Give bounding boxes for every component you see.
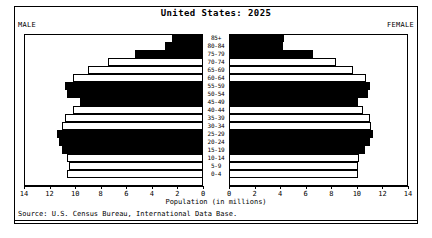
male-bar	[62, 146, 203, 154]
source-note: Source: U.S. Census Bureau, Internationa…	[18, 210, 237, 219]
source-underline	[15, 220, 417, 221]
axis-tick-label: 6	[304, 190, 308, 198]
female-bar	[229, 154, 359, 162]
female-bar	[229, 138, 370, 146]
male-bar	[73, 106, 203, 114]
female-bar	[229, 106, 363, 114]
female-bar	[229, 162, 358, 170]
axis-tick	[357, 186, 358, 189]
age-group-label: 10-14	[203, 154, 229, 162]
male-bar	[65, 114, 203, 122]
male-bar	[59, 138, 203, 146]
age-group-label: 50-54	[203, 90, 229, 98]
x-axis-title: Population (in millions)	[14, 198, 418, 207]
axis-tick	[408, 186, 409, 189]
axis-tick	[50, 186, 51, 189]
female-bar	[229, 66, 353, 74]
chart-title: United States: 2025	[14, 8, 418, 19]
axis-tick	[306, 186, 307, 189]
male-bar	[69, 162, 203, 170]
axis-tick-label: 4	[150, 190, 154, 198]
female-bar	[229, 34, 284, 42]
axis-tick-label: 0	[227, 190, 231, 198]
age-group-label: 60-64	[203, 74, 229, 82]
age-group-label: 20-24	[203, 138, 229, 146]
axis-tick-label: 2	[175, 190, 179, 198]
age-group-labels: 85+80-8475-7970-7465-6960-6455-5950-5445…	[203, 34, 229, 186]
male-bar	[65, 82, 203, 90]
female-bar	[229, 130, 373, 138]
female-bar	[229, 98, 358, 106]
axis-tick	[331, 186, 332, 189]
male-bar	[80, 98, 203, 106]
axis-tick	[229, 186, 230, 189]
age-group-label: 55-59	[203, 82, 229, 90]
axis-tick-label: 8	[329, 190, 333, 198]
male-bar	[67, 170, 203, 178]
age-group-label: 15-19	[203, 146, 229, 154]
axis-line	[229, 186, 408, 187]
axis-tick-label: 14	[20, 190, 28, 198]
female-bar	[229, 122, 371, 130]
male-bar	[165, 42, 203, 50]
axis-tick	[126, 186, 127, 189]
axis-tick	[152, 186, 153, 189]
axis-tick-label: 4	[278, 190, 282, 198]
axis-tick-label: 10	[71, 190, 79, 198]
male-bar	[135, 50, 203, 58]
axis-tick	[24, 186, 25, 189]
age-group-label: 70-74	[203, 58, 229, 66]
age-group-label: 25-29	[203, 130, 229, 138]
axis-tick-label: 14	[404, 190, 412, 198]
male-bar	[67, 154, 203, 162]
axis-tick	[75, 186, 76, 189]
female-bar	[229, 74, 366, 82]
age-group-label: 30-34	[203, 122, 229, 130]
male-bar	[62, 122, 203, 130]
female-bar	[229, 50, 313, 58]
population-pyramid-figure: United States: 2025 MALE FEMALE 85+80-84…	[0, 0, 432, 238]
axis-tick	[255, 186, 256, 189]
age-group-label: 45-49	[203, 98, 229, 106]
age-group-label: 0-4	[203, 170, 229, 178]
age-group-label: 40-44	[203, 106, 229, 114]
age-group-label: 80-84	[203, 42, 229, 50]
age-group-label: 85+	[203, 34, 229, 42]
female-bar	[229, 114, 370, 122]
axis-tick	[280, 186, 281, 189]
plot-area: 85+80-8475-7970-7465-6960-6455-5950-5445…	[24, 34, 408, 186]
axis-tick-label: 10	[353, 190, 361, 198]
axis-line	[24, 186, 203, 187]
female-bar	[229, 146, 365, 154]
axis-tick-label: 12	[378, 190, 386, 198]
male-axis-label: MALE	[18, 21, 36, 29]
axis-tick	[177, 186, 178, 189]
axis-tick-label: 2	[252, 190, 256, 198]
male-bar	[67, 90, 203, 98]
age-group-label: 65-69	[203, 66, 229, 74]
female-bar	[229, 58, 336, 66]
axis-tick	[382, 186, 383, 189]
female-axis-label: FEMALE	[387, 21, 414, 29]
axis-tick-label: 0	[201, 190, 205, 198]
axis-tick	[203, 186, 204, 189]
female-bar	[229, 90, 368, 98]
age-group-label: 35-39	[203, 114, 229, 122]
female-bar	[229, 170, 358, 178]
axis-tick	[101, 186, 102, 189]
male-bar	[57, 130, 203, 138]
male-bar	[108, 58, 203, 66]
male-bar	[88, 66, 203, 74]
male-bar	[73, 74, 203, 82]
axis-tick-label: 6	[124, 190, 128, 198]
axis-tick-label: 12	[45, 190, 53, 198]
male-bar	[172, 34, 203, 42]
female-bar	[229, 42, 283, 50]
female-bar	[229, 82, 370, 90]
age-group-label: 5-9	[203, 162, 229, 170]
axis-tick-label: 8	[99, 190, 103, 198]
age-group-label: 75-79	[203, 50, 229, 58]
